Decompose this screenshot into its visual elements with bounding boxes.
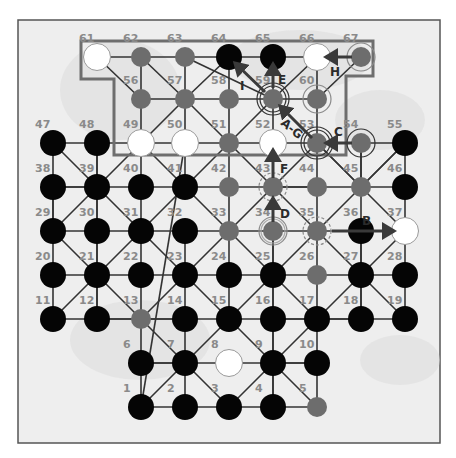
point-20-black-piece[interactable]	[40, 262, 66, 288]
point-16-black-piece[interactable]	[260, 306, 286, 332]
arrow-label: E	[278, 73, 286, 87]
point-24-black-piece[interactable]	[216, 262, 242, 288]
black-piece	[172, 262, 198, 288]
point-32-black-piece[interactable]	[172, 218, 198, 244]
point-48-black-piece[interactable]	[84, 130, 110, 156]
point-63-gray-piece[interactable]	[175, 47, 195, 67]
point-44-gray-piece[interactable]	[307, 177, 327, 197]
point-42-gray-piece[interactable]	[219, 177, 239, 197]
point-18-black-piece[interactable]	[348, 306, 374, 332]
point-41-black-piece[interactable]	[172, 174, 198, 200]
black-piece	[304, 306, 330, 332]
point-40-black-piece[interactable]	[128, 174, 154, 200]
black-piece	[84, 174, 110, 200]
point-56-gray-piece[interactable]	[131, 89, 151, 109]
point-label-14: 14	[167, 294, 183, 307]
black-piece	[84, 306, 110, 332]
black-piece	[172, 174, 198, 200]
point-label-40: 40	[123, 162, 139, 175]
point-51-gray-piece[interactable]	[219, 133, 239, 153]
point-39-black-piece[interactable]	[84, 174, 110, 200]
point-label-32: 32	[167, 206, 182, 219]
point-47-black-piece[interactable]	[40, 130, 66, 156]
arrow-label: H	[330, 65, 340, 79]
point-22-black-piece[interactable]	[128, 262, 154, 288]
point-30-black-piece[interactable]	[84, 218, 110, 244]
point-4-black-piece[interactable]	[260, 394, 286, 420]
point-label-47: 47	[35, 118, 50, 131]
point-28-black-piece[interactable]	[392, 262, 418, 288]
point-1-black-piece[interactable]	[128, 394, 154, 420]
point-10-black-piece[interactable]	[304, 350, 330, 376]
black-piece	[216, 262, 242, 288]
point-label-45: 45	[343, 162, 358, 175]
black-piece	[304, 350, 330, 376]
point-55-black-piece[interactable]	[392, 130, 418, 156]
point-15-black-piece[interactable]	[216, 306, 242, 332]
point-label-26: 26	[299, 250, 315, 263]
point-38-black-piece[interactable]	[40, 174, 66, 200]
point-46-black-piece[interactable]	[392, 174, 418, 200]
arrow-label: I	[240, 79, 244, 93]
point-label-61: 61	[79, 32, 94, 45]
point-5-gray-piece[interactable]	[307, 397, 327, 417]
point-50-white-piece[interactable]	[172, 130, 199, 157]
point-45-gray-piece[interactable]	[351, 177, 371, 197]
point-label-3: 3	[211, 382, 219, 395]
point-19-black-piece[interactable]	[392, 306, 418, 332]
gray-piece	[307, 265, 327, 285]
point-label-30: 30	[79, 206, 95, 219]
point-label-42: 42	[211, 162, 226, 175]
gray-piece	[263, 177, 283, 197]
point-31-black-piece[interactable]	[128, 218, 154, 244]
point-33-gray-piece[interactable]	[219, 221, 239, 241]
point-2-black-piece[interactable]	[172, 394, 198, 420]
point-11-black-piece[interactable]	[40, 306, 66, 332]
point-21-black-piece[interactable]	[84, 262, 110, 288]
gray-piece	[263, 221, 283, 241]
point-14-black-piece[interactable]	[172, 306, 198, 332]
point-7-black-piece[interactable]	[172, 350, 198, 376]
point-49-white-piece[interactable]	[128, 130, 155, 157]
point-label-12: 12	[79, 294, 94, 307]
point-61-white-piece[interactable]	[84, 44, 111, 71]
point-label-46: 46	[387, 162, 403, 175]
point-12-black-piece[interactable]	[84, 306, 110, 332]
point-26-gray-piece[interactable]	[307, 265, 327, 285]
gray-piece	[131, 89, 151, 109]
point-label-55: 55	[387, 118, 402, 131]
point-27-black-piece[interactable]	[348, 262, 374, 288]
gray-piece	[219, 221, 239, 241]
point-label-35: 35	[299, 206, 314, 219]
point-label-20: 20	[35, 250, 51, 263]
point-label-18: 18	[343, 294, 358, 307]
point-17-black-piece[interactable]	[304, 306, 330, 332]
black-piece	[172, 218, 198, 244]
point-13-gray-piece[interactable]	[131, 309, 151, 329]
arrow-label: D	[280, 207, 290, 221]
point-label-48: 48	[79, 118, 94, 131]
gray-piece	[131, 309, 151, 329]
arrow-label: F	[280, 162, 288, 176]
point-37-white-piece[interactable]	[392, 218, 419, 245]
point-label-49: 49	[123, 118, 138, 131]
point-3-black-piece[interactable]	[216, 394, 242, 420]
point-9-black-piece[interactable]	[260, 350, 286, 376]
black-piece	[84, 130, 110, 156]
point-62-gray-piece[interactable]	[131, 47, 151, 67]
white-piece	[84, 44, 111, 71]
point-label-44: 44	[299, 162, 315, 175]
point-label-64: 64	[211, 32, 227, 45]
black-piece	[348, 262, 374, 288]
point-23-black-piece[interactable]	[172, 262, 198, 288]
point-6-black-piece[interactable]	[128, 350, 154, 376]
point-29-black-piece[interactable]	[40, 218, 66, 244]
point-60-gray-piece[interactable]	[303, 85, 331, 113]
point-58-gray-piece[interactable]	[219, 89, 239, 109]
gray-piece	[219, 177, 239, 197]
black-piece	[392, 174, 418, 200]
point-57-gray-piece[interactable]	[175, 89, 195, 109]
point-8-white-piece[interactable]	[216, 350, 243, 377]
point-label-25: 25	[255, 250, 270, 263]
point-25-black-piece[interactable]	[260, 262, 286, 288]
